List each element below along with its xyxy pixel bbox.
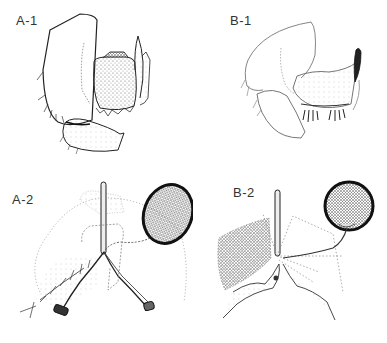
- panel-a2: A-2: [0, 172, 193, 343]
- b2-drawing: [193, 172, 387, 343]
- panel-a1: A-1: [0, 0, 193, 172]
- a2-drawing: [0, 172, 193, 343]
- b1-drawing: [193, 0, 387, 172]
- panel-b2: B-2: [193, 172, 387, 343]
- a1-drawing: [0, 0, 193, 172]
- panel-b1: B-1: [193, 0, 387, 172]
